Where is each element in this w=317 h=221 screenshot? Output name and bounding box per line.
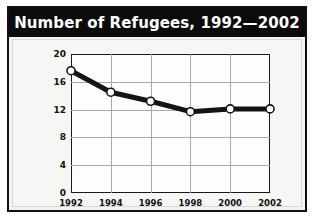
page-title: Number of Refugees, 1992—2002	[14, 14, 300, 32]
x-axis-tick-label: 2000	[218, 198, 242, 208]
y-axis-tick-label: 4	[60, 160, 66, 170]
data-point-marker	[147, 97, 155, 105]
x-axis-tick-label: 2002	[258, 198, 282, 208]
data-point-marker	[226, 105, 234, 113]
x-axis-tick-label: 1998	[179, 198, 203, 208]
y-axis-tick-label: 8	[60, 132, 66, 142]
y-axis-tick-label: 12	[53, 105, 66, 115]
data-point-marker	[186, 108, 194, 116]
data-point-marker	[266, 105, 274, 113]
chart-panel: Numbers in Millions 048121620 1992199419…	[12, 39, 302, 207]
data-series-line	[71, 54, 270, 193]
y-axis-tick-label: 16	[53, 77, 66, 87]
x-axis-tick-label: 1994	[99, 198, 123, 208]
plot-area: 048121620 199219941996199820002002	[71, 54, 270, 193]
chart-title-bar: Number of Refugees, 1992—2002	[9, 8, 305, 37]
data-point-marker	[107, 88, 115, 96]
x-axis-tick-label: 1996	[139, 198, 163, 208]
x-axis-tick-label: 1992	[59, 198, 83, 208]
y-axis-tick-label: 0	[60, 188, 66, 198]
chart-figure: Number of Refugees, 1992—2002 Numbers in…	[7, 6, 307, 212]
data-point-marker	[67, 67, 75, 75]
y-axis-tick-label: 20	[53, 49, 66, 59]
